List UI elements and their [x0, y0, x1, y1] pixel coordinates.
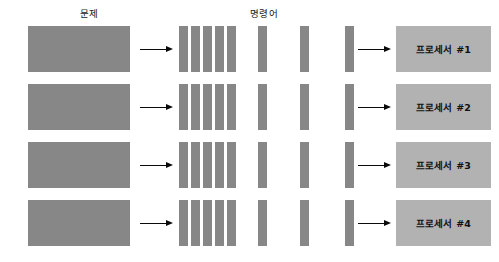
instruction-bar	[300, 142, 309, 188]
instruction-bar	[300, 200, 309, 246]
arrow-shaft	[358, 223, 385, 224]
instruction-bar	[227, 200, 236, 246]
instruction-bar	[215, 200, 224, 246]
instruction-bar	[345, 26, 354, 72]
instruction-bar	[345, 84, 354, 130]
arrow-right-icon	[358, 104, 391, 111]
instruction-bar	[191, 142, 200, 188]
processor-label: 프로세서 #2	[416, 100, 471, 114]
arrow-head	[384, 104, 391, 110]
instruction-bar	[179, 84, 188, 130]
processor-block: 프로세서 #2	[396, 84, 491, 130]
processor-block: 프로세서 #1	[396, 26, 491, 72]
instruction-bar	[203, 142, 212, 188]
arrow-right-icon	[358, 220, 391, 227]
instruction-bar	[191, 26, 200, 72]
instruction-bar	[191, 200, 200, 246]
instruction-bar	[300, 26, 309, 72]
instruction-bar	[258, 200, 267, 246]
processor-label: 프로세서 #4	[416, 216, 471, 230]
arrow-right-icon	[358, 162, 391, 169]
instruction-bar	[179, 142, 188, 188]
instruction-bar	[215, 142, 224, 188]
instruction-bar	[215, 26, 224, 72]
processor-label: 프로세서 #3	[416, 158, 471, 172]
arrow-head	[384, 162, 391, 168]
instruction-bar	[203, 84, 212, 130]
column-header-problem: 문제	[58, 6, 120, 20]
instruction-bar	[179, 200, 188, 246]
instruction-bar	[345, 142, 354, 188]
arrow-shaft	[358, 107, 385, 108]
instruction-bar	[258, 142, 267, 188]
arrow-head	[384, 46, 391, 52]
instruction-bar	[258, 84, 267, 130]
instruction-bar	[227, 142, 236, 188]
diagram-row: 프로세서 #2	[0, 84, 499, 132]
processor-label: 프로세서 #1	[416, 42, 471, 56]
instruction-bar	[215, 84, 224, 130]
arrow-shaft	[358, 165, 385, 166]
diagram-row: 프로세서 #4	[0, 200, 499, 248]
instruction-bar	[227, 26, 236, 72]
instruction-bar	[258, 26, 267, 72]
instruction-bar	[300, 84, 309, 130]
instruction-bar	[191, 84, 200, 130]
instruction-bar	[345, 200, 354, 246]
processor-block: 프로세서 #3	[396, 142, 491, 188]
instruction-bar	[179, 26, 188, 72]
diagram-row: 프로세서 #1	[0, 26, 499, 74]
column-header-instruction: 명령어	[228, 6, 300, 20]
pipeline-diagram: 문제 명령어 프로세서 #1 프로세서 #2	[0, 0, 499, 262]
instruction-bar	[203, 200, 212, 246]
arrow-right-icon	[358, 46, 391, 53]
arrow-shaft	[358, 49, 385, 50]
instruction-bar	[203, 26, 212, 72]
diagram-row: 프로세서 #3	[0, 142, 499, 190]
processor-block: 프로세서 #4	[396, 200, 491, 246]
arrow-head	[384, 220, 391, 226]
instruction-bar	[227, 84, 236, 130]
